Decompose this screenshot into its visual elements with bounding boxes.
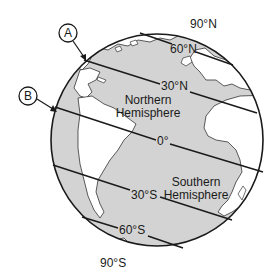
latitude-0-label: 0° bbox=[157, 134, 169, 148]
marker-b: B bbox=[19, 87, 57, 112]
northern-hemisphere-label-line2: Hemisphere bbox=[116, 106, 181, 120]
marker-b-arrow bbox=[37, 99, 53, 109]
south-pole-label: 90°S bbox=[100, 256, 126, 270]
latitude-60n-label: 60°N bbox=[170, 42, 197, 56]
latitude-30s-label: 30°S bbox=[131, 188, 157, 202]
marker-b-label: B bbox=[24, 89, 32, 103]
latitude-60s-label: 60°S bbox=[119, 223, 145, 237]
marker-a-arrow bbox=[73, 41, 84, 57]
northern-hemisphere-label-line1: Northern bbox=[125, 93, 172, 107]
marker-a: A bbox=[59, 24, 86, 61]
southern-hemisphere-label-line2: Hemisphere bbox=[164, 188, 229, 202]
marker-a-label: A bbox=[64, 26, 72, 40]
southern-hemisphere-label-line1: Southern bbox=[172, 175, 221, 189]
arrowhead-icon bbox=[80, 54, 86, 61]
latitude-30n-label: 30°N bbox=[161, 79, 188, 93]
globe-diagram: 60°N 30°N 0° 30°S 60°S 90°N 90°S Norther… bbox=[0, 0, 279, 277]
north-pole-label: 90°N bbox=[190, 17, 217, 31]
